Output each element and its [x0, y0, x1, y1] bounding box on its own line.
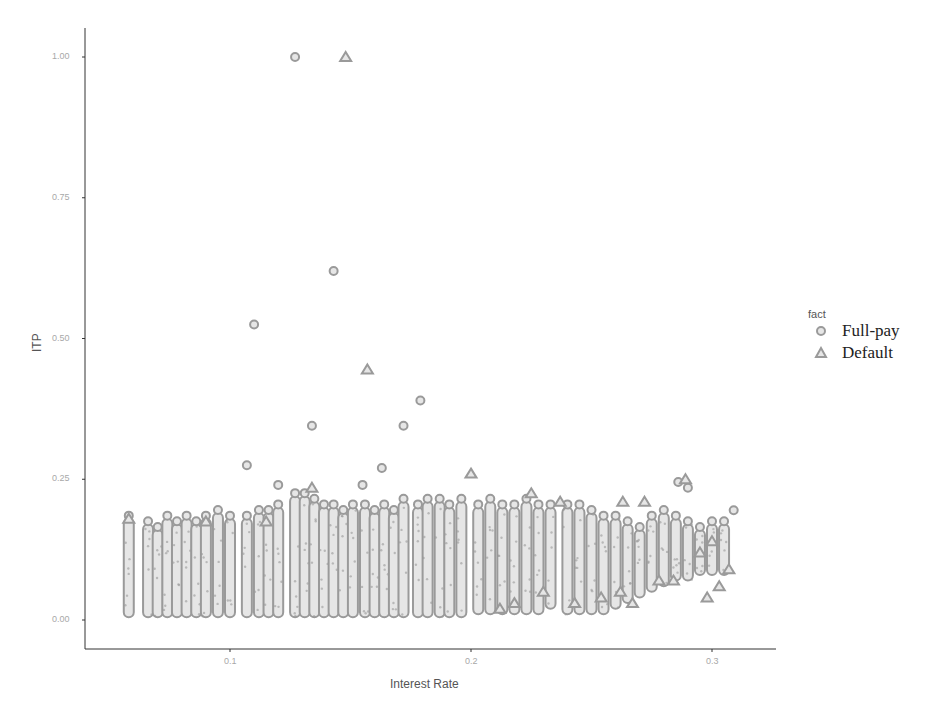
point-band — [348, 507, 358, 617]
full-pay-point — [250, 320, 258, 328]
scatter-plot — [0, 0, 945, 717]
point-band — [338, 513, 348, 617]
point-band — [587, 513, 597, 614]
point-band — [683, 524, 693, 580]
point-band — [309, 502, 319, 617]
point-band — [290, 496, 300, 617]
full-pay-point — [416, 396, 424, 404]
point-band — [300, 496, 310, 617]
point-band — [671, 519, 681, 581]
default-point — [466, 469, 477, 478]
default-point — [526, 488, 537, 497]
default-point — [340, 52, 351, 61]
point-band — [370, 513, 380, 617]
default-point — [680, 474, 691, 483]
y-tick-label: 0.25 — [52, 473, 70, 483]
full-pay-point — [684, 484, 692, 492]
x-tick-label: 0.1 — [224, 656, 237, 666]
point-band — [201, 519, 211, 618]
point-band — [242, 519, 252, 618]
legend-label-full-pay: Full-pay — [842, 321, 900, 341]
point-band — [172, 524, 182, 617]
point-band — [435, 502, 445, 617]
default-point — [555, 497, 566, 506]
full-pay-point — [378, 464, 386, 472]
dense-point-bands — [124, 489, 729, 618]
full-pay-point — [730, 506, 738, 514]
circle-marker-icon — [808, 323, 834, 339]
point-band — [153, 530, 163, 617]
point-band — [254, 513, 264, 617]
full-pay-point — [274, 481, 282, 489]
x-tick-label: 0.2 — [465, 656, 478, 666]
default-point — [702, 592, 713, 601]
legend-label-default: Default — [842, 343, 893, 363]
point-band — [521, 502, 531, 615]
point-band — [360, 507, 370, 617]
point-band — [329, 507, 339, 617]
point-band — [562, 507, 572, 614]
full-pay-point — [291, 53, 299, 61]
x-axis-title: Interest Rate — [390, 677, 459, 691]
triangle-marker-icon — [808, 345, 834, 361]
full-pay-point — [308, 422, 316, 430]
y-tick-label: 0.00 — [52, 614, 70, 624]
default-point — [617, 497, 628, 506]
y-tick-label: 1.00 — [52, 51, 70, 61]
full-pay-point — [243, 461, 251, 469]
legend: fact Full-pay Default — [808, 308, 900, 364]
full-pay-point — [330, 267, 338, 275]
legend-entry-full-pay: Full-pay — [808, 320, 900, 342]
point-band — [273, 507, 283, 617]
point-band — [533, 507, 543, 614]
point-band — [707, 524, 717, 575]
point-band — [264, 513, 274, 617]
legend-title: fact — [808, 308, 900, 320]
default-point — [362, 364, 373, 373]
point-band — [423, 502, 433, 617]
point-band — [497, 507, 507, 614]
full-pay-point — [359, 481, 367, 489]
default-point — [306, 483, 317, 492]
legend-entry-default: Default — [808, 342, 900, 364]
point-band — [399, 502, 409, 617]
y-tick-label: 0.75 — [52, 192, 70, 202]
point-band — [143, 524, 153, 617]
full-pay-point — [400, 422, 408, 430]
default-point — [714, 581, 725, 590]
y-tick-label: 0.50 — [52, 333, 70, 343]
default-point — [639, 497, 650, 506]
point-band — [162, 519, 172, 618]
y-axis-title: ITP — [30, 333, 44, 352]
point-band — [473, 507, 483, 614]
x-tick-label: 0.3 — [706, 656, 719, 666]
point-band — [319, 507, 329, 617]
point-band — [379, 507, 389, 617]
